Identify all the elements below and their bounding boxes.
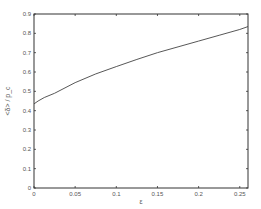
y-axis-label: <δ> / p_c <box>4 86 12 116</box>
y-tick-label: 0.4 <box>23 108 32 114</box>
x-tick-label: 0.25 <box>234 191 246 197</box>
y-tick-label: 0 <box>28 185 32 191</box>
x-tick-label: 0.2 <box>194 191 203 197</box>
y-tick-label: 0.5 <box>23 88 32 94</box>
y-tick-label: 0.8 <box>23 30 32 36</box>
y-tick-label: 0.1 <box>23 166 32 172</box>
y-tick-label: 0.9 <box>23 11 32 17</box>
y-tick-label: 0.2 <box>23 146 32 152</box>
y-tick-label: 0.3 <box>23 127 32 133</box>
x-axis-label: ε <box>139 198 142 205</box>
x-tick-label: 0.1 <box>112 191 121 197</box>
plot-area <box>34 14 248 188</box>
line-chart: 00.10.20.30.40.50.60.70.80.9 00.050.10.1… <box>0 0 261 209</box>
x-tick-label: 0.05 <box>69 191 81 197</box>
y-tick-label: 0.6 <box>23 69 32 75</box>
x-tick-label: 0 <box>32 191 36 197</box>
x-tick-label: 0.15 <box>152 191 164 197</box>
y-tick-label: 0.7 <box>23 50 32 56</box>
